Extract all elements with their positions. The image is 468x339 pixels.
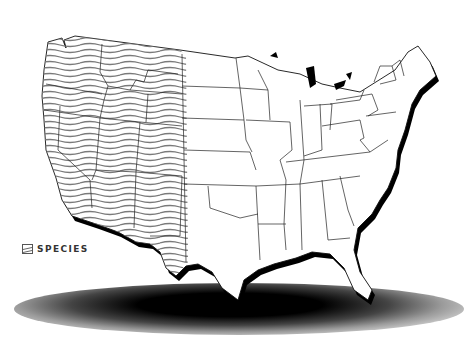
wavy-hatch-swatch-icon [22, 244, 33, 254]
map-legend: SPECIES [22, 244, 89, 254]
legend-label-species: SPECIES [37, 244, 89, 254]
species-range-map: SPECIES [0, 0, 468, 339]
us-map-svg [0, 0, 468, 339]
